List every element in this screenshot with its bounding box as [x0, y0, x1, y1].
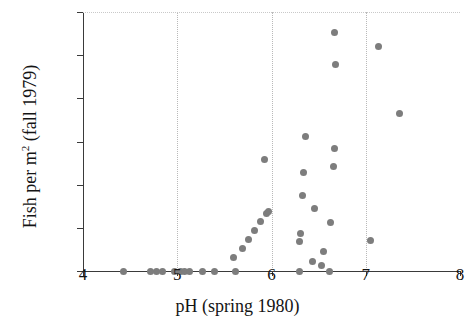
data-point: [245, 236, 252, 243]
y-axis-line: [83, 12, 84, 272]
x-axis-tick-label: 8: [440, 266, 475, 283]
data-point: [318, 262, 325, 269]
y-axis-tick: [77, 228, 83, 229]
data-point: [326, 268, 333, 275]
data-point: [257, 218, 264, 225]
data-point: [396, 110, 403, 117]
data-point: [327, 219, 334, 226]
x-axis-tick-label: 4: [63, 266, 103, 283]
data-point: [309, 258, 316, 265]
plot-area: [83, 12, 460, 272]
gridline-horizontal: [83, 12, 460, 13]
data-point: [331, 29, 338, 36]
gridline-vertical: [272, 12, 273, 272]
data-point: [232, 268, 239, 275]
x-axis-tick-label: 5: [157, 266, 197, 283]
data-point: [332, 61, 339, 68]
data-point: [300, 169, 307, 176]
data-point: [230, 254, 237, 261]
y-axis-tick: [77, 142, 83, 143]
data-point: [320, 248, 327, 255]
y-axis-tick: [77, 185, 83, 186]
data-point: [120, 268, 127, 275]
data-point: [261, 156, 268, 163]
y-axis-title-superscript: 2: [19, 146, 31, 152]
data-point: [211, 268, 218, 275]
y-axis-tick: [77, 12, 83, 13]
data-point: [299, 192, 306, 199]
data-point: [296, 238, 303, 245]
data-point: [330, 163, 337, 170]
gridline-vertical: [177, 12, 178, 272]
y-axis-tick: [77, 55, 83, 56]
data-point: [311, 205, 318, 212]
data-point: [199, 268, 206, 275]
gridline-vertical: [366, 12, 367, 272]
data-point: [302, 133, 309, 140]
data-point: [239, 245, 246, 252]
y-axis-tick: [77, 98, 83, 99]
y-axis-title-prefix: Fish per m: [20, 151, 40, 228]
x-axis-tick-label: 6: [252, 266, 292, 283]
data-point: [375, 43, 382, 50]
data-point: [297, 230, 304, 237]
scatter-chart: 00.10.20.30.40.50.645678 pH (spring 1980…: [0, 0, 475, 324]
data-point: [367, 237, 374, 244]
x-axis-tick-label: 7: [346, 266, 386, 283]
data-point: [296, 268, 303, 275]
y-axis-title-suffix: (fall 1979): [20, 65, 40, 146]
y-axis-title: Fish per m2 (fall 1979): [15, 7, 40, 287]
data-point: [251, 227, 258, 234]
x-axis-title: pH (spring 1980): [0, 296, 475, 316]
data-point: [331, 145, 338, 152]
